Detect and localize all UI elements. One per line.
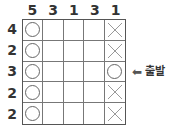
circle-icon: [23, 82, 42, 102]
grid-cell[interactable]: [43, 62, 63, 83]
grid-cell[interactable]: [84, 62, 104, 83]
arrow-left-icon: ⬅: [132, 65, 142, 79]
grid-cell[interactable]: [23, 41, 43, 62]
row-clues: 4 2 3 2 2: [4, 19, 20, 125]
grid-cell[interactable]: [43, 41, 63, 62]
puzzle-grid: [22, 19, 126, 125]
grid-cell[interactable]: [105, 20, 125, 41]
start-marker: ⬅ 출발: [132, 65, 165, 79]
grid-cell[interactable]: [84, 103, 104, 124]
grid-cell[interactable]: [64, 41, 84, 62]
column-clue: 1: [64, 1, 85, 19]
cross-icon: [105, 103, 125, 124]
grid-cell[interactable]: [64, 62, 84, 83]
grid-cell[interactable]: [105, 103, 125, 124]
circle-icon: [23, 41, 42, 61]
grid-cell[interactable]: [84, 41, 104, 62]
grid-cell[interactable]: [43, 103, 63, 124]
row-clue: 2: [4, 83, 20, 104]
row-clue: 2: [4, 40, 20, 61]
grid-cell[interactable]: [23, 82, 43, 103]
start-label: 출발: [145, 65, 165, 79]
column-clue: 3: [43, 1, 64, 19]
row-clue: 4: [4, 19, 20, 40]
grid-cell[interactable]: [23, 103, 43, 124]
column-clue: 3: [84, 1, 105, 19]
cross-icon: [105, 41, 125, 61]
grid-cell[interactable]: [105, 62, 125, 83]
column-clue: 1: [105, 1, 126, 19]
grid-cell[interactable]: [105, 82, 125, 103]
row-clue: 2: [4, 104, 20, 125]
cross-icon: [105, 20, 125, 40]
column-clues: 5 3 1 3 1: [22, 1, 126, 19]
grid-cell[interactable]: [64, 82, 84, 103]
grid-cell[interactable]: [64, 20, 84, 41]
grid-cell[interactable]: [43, 20, 63, 41]
row-clue: 3: [4, 61, 20, 82]
grid-cell[interactable]: [105, 41, 125, 62]
circle-icon: [23, 103, 42, 124]
grid-cell[interactable]: [84, 20, 104, 41]
grid-cell[interactable]: [64, 103, 84, 124]
grid-cell[interactable]: [23, 20, 43, 41]
column-clue: 5: [22, 1, 43, 19]
circle-icon: [23, 20, 42, 40]
circle-icon: [105, 62, 125, 82]
grid-cell[interactable]: [23, 62, 43, 83]
grid-cell[interactable]: [84, 82, 104, 103]
grid-cell[interactable]: [43, 82, 63, 103]
cross-icon: [105, 82, 125, 102]
circle-icon: [23, 62, 42, 82]
